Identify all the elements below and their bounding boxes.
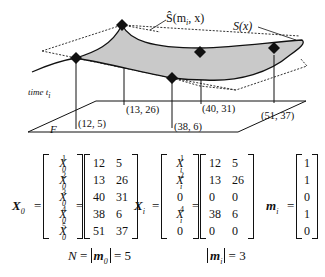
leader-s-hat: [150, 20, 166, 30]
label-floor-f: F: [50, 124, 57, 135]
xi-sym-4: X4i: [170, 206, 190, 222]
xi-row-4: 386: [209, 206, 245, 222]
coord-label-13-26: (13, 26): [126, 105, 159, 116]
surface-s: [76, 25, 303, 80]
x0-equals-2: =: [76, 199, 83, 212]
mi-row-3: 0: [303, 189, 311, 205]
mi-count-equation: mi = 3: [207, 249, 246, 266]
xi-row-3: 00: [209, 189, 245, 205]
leader-s: [258, 27, 296, 40]
point-diamond-peak: [116, 19, 128, 31]
x0-value-matrix: 125 1326 4031 386 5137: [84, 154, 138, 239]
xi-name: Xi: [134, 199, 145, 216]
mi-row-5: 0: [303, 223, 311, 239]
xi-row-5: 00: [209, 223, 245, 239]
x0-row-3: 4031: [93, 189, 129, 205]
xi-row-2: 1326: [209, 172, 245, 188]
xi-equals: =: [152, 199, 159, 212]
x0-row-4: 386: [93, 206, 129, 222]
x0-symbol-matrix: X10 X20 X30 X40 X50: [43, 154, 83, 239]
x0-row-2: 1326: [93, 172, 129, 188]
x0-row-1: 125: [93, 155, 129, 171]
mi-row-4: 1: [303, 206, 311, 222]
coord-label-12-5: (12, 5): [78, 119, 106, 130]
mi-name: mi: [266, 199, 278, 216]
label-s: S(x): [233, 20, 252, 32]
x0-sym-5: X50: [52, 223, 74, 239]
xi-equals-2: =: [192, 199, 199, 212]
xi-symbol-matrix: X1i X2i 0 X4i 0: [161, 154, 199, 239]
coord-label-51-37: (51, 37): [261, 111, 294, 122]
x0-equals: =: [34, 199, 41, 212]
mi-row-1: 1: [303, 155, 311, 171]
point-diamond-12-5: [70, 52, 82, 64]
mi-row-2: 1: [303, 172, 311, 188]
label-s-hat: Ŝ(mi, x): [166, 12, 204, 27]
xi-value-matrix: 125 1326 00 386 00: [200, 154, 254, 239]
coord-label-38-6: (38, 6): [174, 122, 202, 133]
coord-label-40-31: (40, 31): [202, 104, 235, 115]
xi-sym-2: X2i: [170, 172, 190, 188]
xi-row-1: 125: [209, 155, 245, 171]
n-equation: N = m0 = 5: [68, 249, 131, 266]
label-time: time ti: [28, 88, 50, 100]
mi-equals: =: [287, 199, 294, 212]
x0-name: X0: [12, 199, 25, 216]
x0-row-5: 5137: [93, 223, 129, 239]
mi-vector: 1 1 0 1 0: [296, 154, 318, 239]
